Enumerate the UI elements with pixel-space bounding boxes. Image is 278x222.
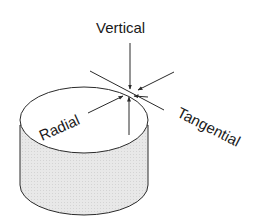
diagram-canvas: Vertical Radial Tangential (0, 0, 278, 222)
tangential-arrow-lower (134, 96, 148, 97)
label-tangential: Tangential (175, 104, 244, 150)
label-vertical: Vertical (96, 19, 145, 36)
force-directions-diagram: Vertical Radial Tangential (0, 0, 278, 222)
tangential-arrow-upper (138, 72, 174, 90)
